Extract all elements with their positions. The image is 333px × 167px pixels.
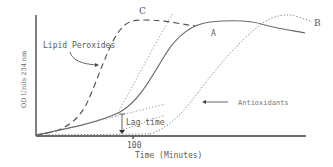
curve-b-baseline	[36, 134, 150, 135]
lag-time-label: Lag time	[126, 118, 165, 127]
antioxidants-label: Antioxidants	[238, 99, 289, 107]
lipid-peroxides-arrow	[70, 52, 96, 65]
antioxidants-arrowhead-icon	[202, 100, 206, 104]
y-axis-title: OD Units 234 nm	[20, 51, 28, 108]
oxidation-kinetics-chart: C A B Lipid Peroxides Antioxidants Lag t…	[0, 0, 333, 167]
curve-c	[36, 20, 195, 135]
curve-b	[150, 15, 312, 134]
x-axis-title: Time (Minutes)	[135, 151, 202, 160]
tangent-line-propagation	[116, 14, 172, 116]
lag-time-arrowhead-icon	[119, 130, 125, 134]
curve-b-label: B	[314, 18, 321, 28]
curve-c-label: C	[139, 6, 146, 16]
x-tick-label-100: 100	[127, 141, 142, 150]
lipid-peroxides-label: Lipid Peroxides	[43, 41, 115, 50]
lipid-peroxides-arrowhead-icon	[95, 63, 99, 67]
curve-a-label: A	[211, 29, 216, 38]
